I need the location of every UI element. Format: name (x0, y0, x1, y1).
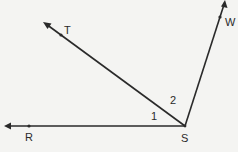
arrowhead-r-icon (4, 123, 11, 130)
geometry-diagram: R T W S 1 2 (0, 0, 238, 152)
ray-sw (185, 0, 228, 126)
ray-st (43, 22, 185, 126)
angle-label-1: 1 (151, 110, 157, 122)
point-w (218, 15, 221, 18)
label-t: T (64, 24, 71, 36)
arrowhead-w-icon (221, 0, 228, 8)
vertex-s (184, 125, 187, 128)
point-t (59, 33, 62, 36)
ray-sr (4, 123, 185, 130)
angle-label-2: 2 (170, 94, 176, 106)
label-w: W (225, 16, 236, 28)
label-r: R (25, 131, 33, 143)
label-s: S (181, 132, 188, 144)
point-r (27, 124, 30, 127)
